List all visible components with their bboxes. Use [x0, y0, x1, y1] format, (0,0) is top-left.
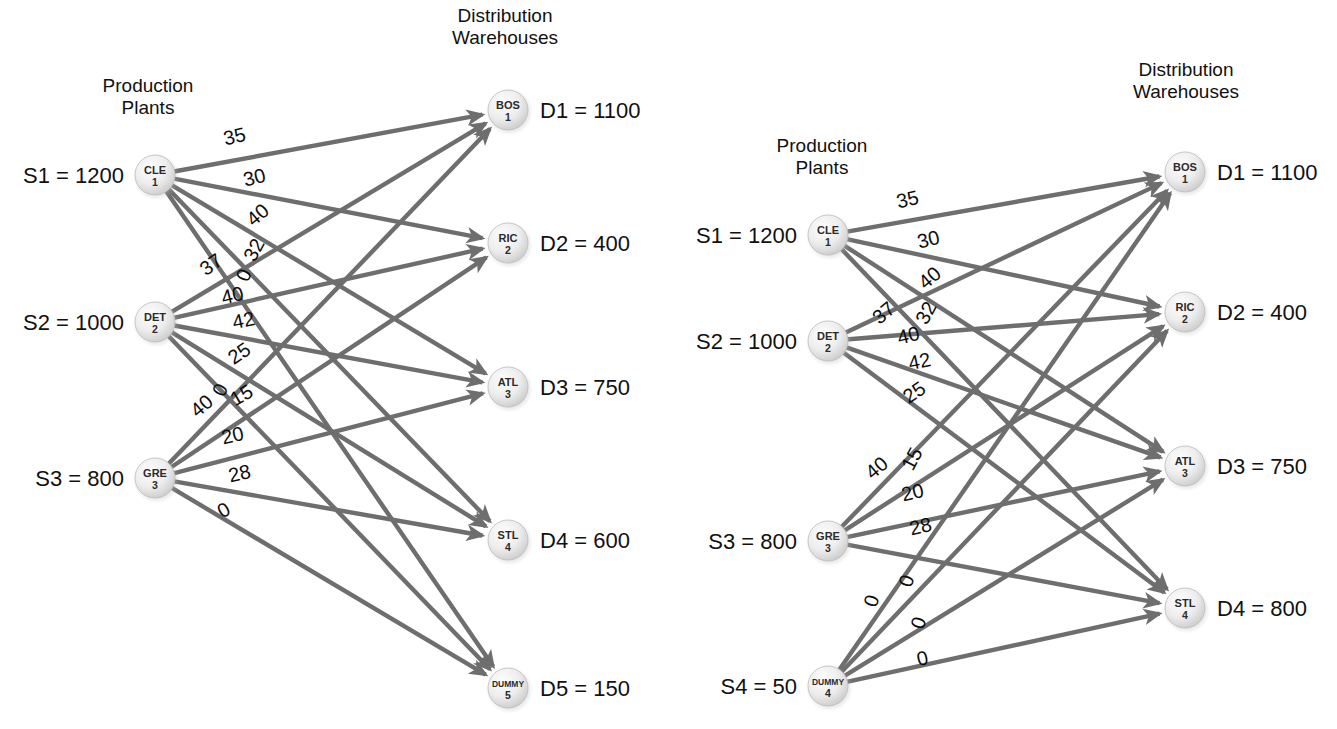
diagram-canvas: CLE1S1 = 1200DET2S2 = 1000GRE3S3 = 800BO… [0, 0, 1337, 729]
supply-label-gre: S3 = 800 [35, 466, 124, 491]
node-index: 4 [505, 541, 511, 553]
header-production-plants-left-line1: Production [103, 75, 194, 96]
node-code: DUMMY [812, 677, 844, 687]
header-production-plants-left-line2: Plants [122, 97, 175, 118]
supply-label-det: S2 = 1000 [23, 310, 124, 335]
supply-label-dummy: S4 = 50 [721, 674, 797, 699]
edge-cost-label: 25 [899, 377, 930, 408]
node-code: GRE [143, 467, 167, 479]
edge-cost-label: 28 [226, 460, 253, 486]
edge-cle-to-atl [170, 184, 485, 373]
edge-cost-label: 40 [242, 199, 273, 230]
node-code: STL [1175, 597, 1196, 609]
node-code: RIC [499, 232, 518, 244]
demand-label-ric: D2 = 400 [540, 231, 630, 256]
edge-cost-label: 20 [219, 422, 246, 448]
edge-group-left-panel [165, 115, 493, 675]
node-code: STL [498, 529, 519, 541]
node-index: 3 [1182, 467, 1188, 479]
node-index: 4 [825, 687, 831, 699]
edge-cost-label: 35 [894, 186, 921, 212]
node-dummy-source: DUMMY4 [806, 665, 853, 712]
node-index: 1 [1182, 173, 1188, 185]
edge-cost-label: 42 [906, 348, 932, 374]
supply-label-gre: S3 = 800 [708, 529, 797, 554]
demand-label-atl: D3 = 750 [1217, 454, 1307, 479]
demand-label-stl: D4 = 800 [1217, 596, 1307, 621]
edge-dummy-to-bos [838, 193, 1170, 671]
edge-det-to-stl [842, 352, 1164, 593]
demand-label-atl: D3 = 750 [540, 375, 630, 400]
supply-label-cle: S1 = 1200 [696, 223, 797, 248]
edge-cost-label: 35 [221, 123, 248, 149]
node-index: 2 [1182, 313, 1188, 325]
edge-cost-label: 25 [224, 338, 255, 369]
node-bos-destination: BOS1 [1163, 151, 1210, 198]
node-atl-destination: ATL3 [1163, 445, 1210, 492]
node-code: RIC [1176, 301, 1195, 313]
node-code: BOS [1173, 161, 1197, 173]
edge-cost-label: 42 [230, 307, 256, 333]
edge-cost-label: 30 [241, 164, 268, 191]
demand-label-bos: D1 = 1100 [1217, 160, 1318, 185]
node-index: 1 [505, 111, 511, 123]
node-code: DET [144, 311, 166, 323]
demand-label-dummy: D5 = 150 [540, 676, 630, 701]
node-code: DET [817, 330, 839, 342]
node-dummy-destination: DUMMY5 [486, 667, 533, 714]
header-distribution-warehouses-right-line2: Warehouses [1133, 81, 1239, 102]
node-bos-destination: BOS1 [486, 89, 533, 136]
header-production-plants-right-line2: Plants [796, 157, 849, 178]
node-index: 3 [152, 479, 158, 491]
node-det-source: DET2 [806, 320, 853, 367]
node-index: 5 [505, 689, 511, 701]
header-distribution-warehouses-right-line1: Distribution [1138, 59, 1233, 80]
header-distribution-warehouses-left-line1: Distribution [457, 5, 552, 26]
node-gre-source: GRE3 [806, 520, 853, 567]
transportation-network-svg: CLE1S1 = 1200DET2S2 = 1000GRE3S3 = 800BO… [0, 0, 1337, 729]
edge-cost-label: 0 [859, 592, 883, 609]
node-index: 2 [825, 342, 831, 354]
edge-cost-label: 0 [213, 498, 234, 523]
node-cle-source: CLE1 [806, 214, 853, 261]
node-det-source: DET2 [133, 301, 180, 348]
edge-cost-label: 15 [897, 444, 927, 474]
edge-group-right-panel [838, 177, 1170, 683]
demand-label-bos: D1 = 1100 [540, 98, 641, 123]
edge-gre-to-bos [841, 191, 1167, 528]
node-index: 3 [505, 388, 511, 400]
edge-det-to-atl [173, 325, 483, 382]
node-code: GRE [816, 530, 840, 542]
supply-label-det: S2 = 1000 [696, 329, 797, 354]
node-stl-destination: STL4 [1163, 587, 1210, 634]
node-code: BOS [496, 99, 520, 111]
node-index: 2 [505, 244, 511, 256]
edge-cle-to-bos [173, 115, 483, 172]
node-group-left-panel: CLE1S1 = 1200DET2S2 = 1000GRE3S3 = 800BO… [23, 89, 640, 714]
edge-cost-label: 30 [915, 226, 942, 253]
supply-label-cle: S1 = 1200 [23, 163, 124, 188]
node-index: 3 [825, 542, 831, 554]
node-code: ATL [1175, 455, 1196, 467]
header-production-plants-right-line1: Production [777, 135, 868, 156]
node-code: DUMMY [492, 679, 524, 689]
node-atl-destination: ATL3 [486, 366, 533, 413]
node-index: 4 [1182, 609, 1188, 621]
edge-cost-label: 28 [907, 513, 934, 539]
node-code: CLE [817, 224, 839, 236]
node-index: 1 [152, 176, 158, 188]
node-index: 1 [825, 236, 831, 248]
node-gre-source: GRE3 [133, 457, 180, 504]
header-distribution-warehouses-left-line2: Warehouses [452, 27, 558, 48]
node-index: 2 [152, 323, 158, 335]
node-stl-destination: STL4 [486, 519, 533, 566]
node-ric-destination: RIC2 [1163, 291, 1210, 338]
edge-gre-to-bos [167, 129, 490, 465]
demand-label-ric: D2 = 400 [1217, 300, 1307, 325]
edge-cost-label: 0 [906, 614, 930, 631]
node-code: CLE [144, 164, 166, 176]
node-ric-destination: RIC2 [486, 222, 533, 269]
edge-gre-to-dummy [170, 487, 485, 675]
node-cle-source: CLE1 [133, 154, 180, 201]
node-code: ATL [498, 376, 519, 388]
